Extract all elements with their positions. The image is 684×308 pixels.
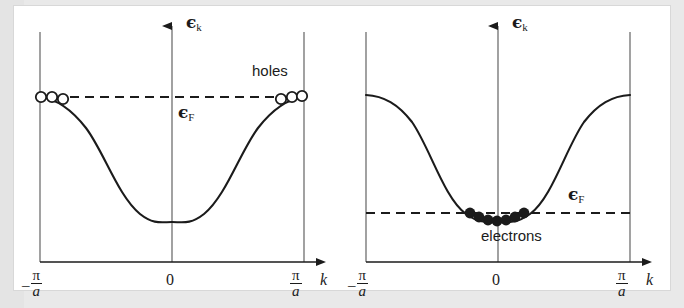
pi-over-a-fraction: πa bbox=[31, 268, 43, 300]
electron-marker bbox=[519, 208, 530, 219]
a-denominator: a bbox=[616, 283, 628, 300]
energy-axis-label: ϵk bbox=[186, 14, 202, 33]
pi-over-a-fraction: πa bbox=[357, 268, 369, 300]
hole-marker bbox=[47, 92, 57, 102]
a-denominator: a bbox=[290, 283, 302, 300]
a-denominator: a bbox=[31, 283, 43, 300]
hole-markers-left bbox=[36, 92, 68, 104]
pi-numerator: π bbox=[31, 268, 43, 283]
pi-numerator: π bbox=[616, 268, 628, 283]
xtick-zero: 0 bbox=[166, 272, 174, 288]
k-axis-label: k bbox=[320, 272, 327, 288]
band-diagram-svg bbox=[0, 0, 684, 308]
electrons-label: electrons bbox=[481, 228, 542, 243]
hole-marker bbox=[297, 91, 307, 101]
pi-over-a-fraction: πa bbox=[616, 268, 628, 300]
hole-marker bbox=[287, 92, 297, 102]
xtick-pi-over-a: πa bbox=[290, 268, 302, 300]
energy-axis-label: ϵk bbox=[512, 14, 528, 33]
hole-marker bbox=[36, 92, 46, 102]
k-axis-label: k bbox=[646, 272, 653, 288]
minus-sign: – bbox=[348, 278, 356, 293]
xtick-zero: 0 bbox=[492, 272, 500, 288]
fermi-level-label: ϵF bbox=[568, 186, 584, 205]
hole-marker bbox=[276, 94, 286, 104]
holes-label: holes bbox=[252, 63, 288, 78]
electron-markers bbox=[465, 208, 530, 227]
pi-numerator: π bbox=[290, 268, 302, 283]
xtick-minus-pi-over-a: –πa bbox=[348, 268, 368, 300]
fermi-level-label: ϵF bbox=[178, 104, 194, 123]
xtick-pi-over-a: πa bbox=[616, 268, 628, 300]
hole-marker bbox=[58, 94, 68, 104]
figure-root: ϵk ϵF holes –πa 0 πa k ϵk ϵF electrons –… bbox=[0, 0, 684, 308]
minus-sign: – bbox=[22, 278, 30, 293]
a-denominator: a bbox=[357, 283, 369, 300]
xtick-minus-pi-over-a: –πa bbox=[22, 268, 42, 300]
hole-markers-right bbox=[276, 91, 307, 104]
pi-numerator: π bbox=[357, 268, 369, 283]
pi-over-a-fraction: πa bbox=[290, 268, 302, 300]
